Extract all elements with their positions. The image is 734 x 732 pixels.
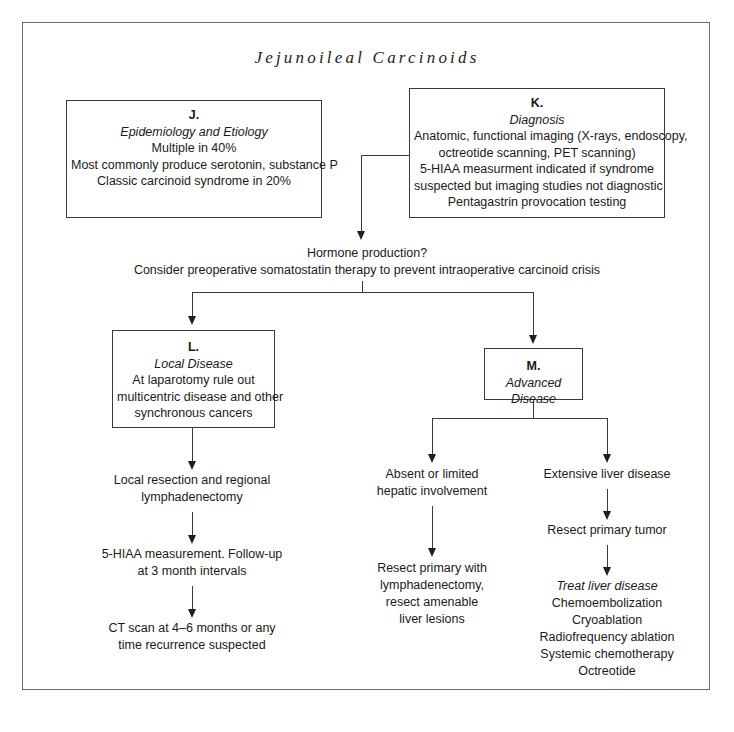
node-k-letter: K. — [414, 95, 660, 111]
step-treat-liver-disease: Treat liver disease Chemoembolization Cr… — [517, 578, 697, 680]
step-hiaa-line-2: at 3 month intervals — [67, 563, 317, 580]
node-l-line-1: At laparotomy rule out — [117, 372, 270, 389]
step-resect-primary-tumor-line-1: Resect primary tumor — [527, 522, 687, 539]
step-hormone-production: Hormone production? Consider preoperativ… — [67, 245, 667, 279]
step-hiaa-followup: 5-HIAA measurement. Follow-up at 3 month… — [67, 546, 317, 580]
connector-hiaa-to-ct-scan — [192, 586, 193, 611]
treat-liver-item-5: Octreotide — [517, 663, 697, 680]
arrowhead-l-to-local-resection — [188, 461, 196, 470]
connector-k-to-hormone-vertical — [361, 155, 362, 232]
node-k-line-4: suspected but imaging studies not diagno… — [414, 178, 660, 195]
node-j-line-3: Classic carcinoid syndrome in 20% — [71, 173, 317, 190]
step-extensive-liver-line-1: Extensive liver disease — [527, 466, 687, 483]
node-box-l: L. Local Disease At laparotomy rule out … — [112, 330, 275, 428]
connector-resect-tumor-to-treat-liver — [607, 545, 608, 569]
step-absent-limited: Absent or limited hepatic involvement — [352, 466, 512, 500]
node-k-line-2: octreotide scanning, PET scanning) — [414, 145, 660, 162]
node-k-line-3: 5-HIAA measurment indicated if syndrome — [414, 161, 660, 178]
node-m-letter: M. — [489, 358, 578, 374]
arrowhead-m-to-absent — [428, 454, 436, 463]
step-hiaa-line-1: 5-HIAA measurement. Follow-up — [67, 546, 317, 563]
node-l-line-2: multicentric disease and other — [117, 389, 270, 406]
treat-liver-item-2: Cryoablation — [517, 612, 697, 629]
connector-absent-to-resect-primary — [432, 506, 433, 550]
node-j-line-2: Most commonly produce serotonin, substan… — [71, 157, 317, 174]
node-l-letter: L. — [117, 339, 270, 355]
node-k-line-1: Anatomic, functional imaging (X-rays, en… — [414, 128, 660, 145]
step-absent-line-1: Absent or limited — [352, 466, 512, 483]
connector-extensive-to-resect-tumor — [607, 489, 608, 513]
node-j-letter: J. — [71, 107, 317, 123]
connector-l-to-local-resection — [192, 428, 193, 463]
node-l-line-3: synchronous cancers — [117, 405, 270, 422]
node-box-k: K. Diagnosis Anatomic, functional imagin… — [409, 88, 665, 218]
connector-m-to-absent-vertical — [432, 418, 433, 456]
connector-local-resection-to-hiaa — [192, 512, 193, 537]
treat-liver-item-1: Chemoembolization — [517, 595, 697, 612]
step-resect-primary-tumor: Resect primary tumor — [527, 522, 687, 539]
arrowhead-hormone-to-m — [529, 335, 537, 344]
connector-hormone-to-m-vertical — [533, 292, 534, 336]
arrowhead-absent-to-resect-primary — [428, 548, 436, 557]
step-absent-line-2: hepatic involvement — [352, 483, 512, 500]
step-hormone-line-1: Hormone production? — [67, 245, 667, 262]
step-ct-scan: CT scan at 4–6 months or any time recurr… — [67, 620, 317, 654]
connector-hormone-to-l-vertical — [192, 292, 193, 317]
treat-liver-item-4: Systemic chemotherapy — [517, 646, 697, 663]
step-resect-primary-with-line-1: Resect primary with — [352, 560, 512, 577]
node-k-line-5: Pentagastrin provocation testing — [414, 194, 660, 211]
step-local-resection: Local resection and regional lymphadenec… — [77, 472, 307, 506]
node-k-subtitle: Diagnosis — [414, 112, 660, 128]
arrowhead-resect-tumor-to-treat-liver — [603, 567, 611, 576]
step-hormone-line-2: Consider preoperative somatostatin thera… — [67, 262, 667, 279]
arrowhead-m-to-extensive — [603, 454, 611, 463]
connector-m-split-horizontal — [432, 418, 608, 419]
connector-m-down — [533, 400, 534, 418]
step-local-resection-line-2: lymphadenectomy — [77, 489, 307, 506]
arrowhead-hormone-to-l — [188, 316, 196, 325]
flowchart-page: Jejunoileal Carcinoids J. Epidemiology a… — [0, 0, 734, 732]
arrowhead-hiaa-to-ct-scan — [188, 609, 196, 618]
step-ct-scan-line-2: time recurrence suspected — [67, 637, 317, 654]
step-resect-primary-with-line-3: resect amenable — [352, 594, 512, 611]
connector-m-to-extensive-vertical — [607, 418, 608, 456]
node-box-m: M. Advanced Disease — [484, 348, 583, 400]
node-j-line-1: Multiple in 40% — [71, 140, 317, 157]
step-resect-primary-with: Resect primary with lymphadenectomy, res… — [352, 560, 512, 628]
treat-liver-item-3: Radiofrequency ablation — [517, 629, 697, 646]
page-title: Jejunoileal Carcinoids — [0, 48, 734, 68]
connector-hormone-split-horizontal — [192, 292, 533, 293]
node-j-subtitle: Epidemiology and Etiology — [71, 124, 317, 140]
connector-k-to-hormone-horizontal — [361, 155, 410, 156]
node-l-subtitle: Local Disease — [117, 356, 270, 372]
treat-liver-heading: Treat liver disease — [517, 578, 697, 595]
node-box-j: J. Epidemiology and Etiology Multiple in… — [66, 100, 322, 218]
step-ct-scan-line-1: CT scan at 4–6 months or any — [67, 620, 317, 637]
step-resect-primary-with-line-4: liver lesions — [352, 611, 512, 628]
arrowhead-k-to-hormone — [357, 231, 365, 240]
arrowhead-local-resection-to-hiaa — [188, 535, 196, 544]
arrowhead-extensive-to-resect-tumor — [603, 511, 611, 520]
step-extensive-liver-disease: Extensive liver disease — [527, 466, 687, 483]
step-resect-primary-with-line-2: lymphadenectomy, — [352, 577, 512, 594]
step-local-resection-line-1: Local resection and regional — [77, 472, 307, 489]
